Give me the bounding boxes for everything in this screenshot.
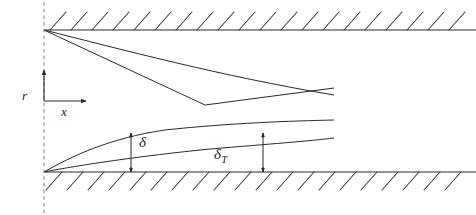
delta-T-subscript: T	[221, 154, 228, 165]
diagram-canvas: r x δ δT	[0, 0, 476, 215]
delta-dimension-group: δ	[131, 133, 147, 172]
upper-cusp-return-line	[205, 88, 334, 105]
delta-T-dimension-group: δT	[214, 133, 263, 172]
bottom-wall-hatching	[46, 172, 461, 190]
bottom-wall-group	[44, 172, 476, 190]
r-axis-label: r	[22, 88, 28, 103]
boundary-layer-curves	[44, 30, 334, 172]
upper-thermal-layer-edge	[44, 30, 205, 105]
top-wall-group	[44, 12, 476, 30]
lower-thermal-layer-edge	[44, 138, 334, 172]
upper-boundary-layer-edge	[44, 30, 334, 95]
x-axis-label: x	[60, 104, 67, 119]
coordinate-axes: r x	[22, 70, 86, 119]
boundary-layer-diagram: r x δ δT	[0, 0, 476, 215]
delta-label: δ	[139, 134, 147, 150]
top-wall-hatching	[50, 12, 465, 30]
delta-T-label: δT	[214, 146, 228, 165]
